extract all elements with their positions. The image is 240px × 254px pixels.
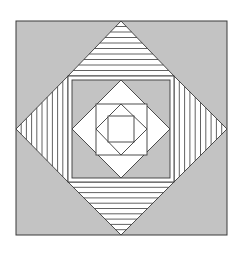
quilt-block-diagram	[0, 0, 240, 254]
innermost-square	[108, 116, 134, 142]
